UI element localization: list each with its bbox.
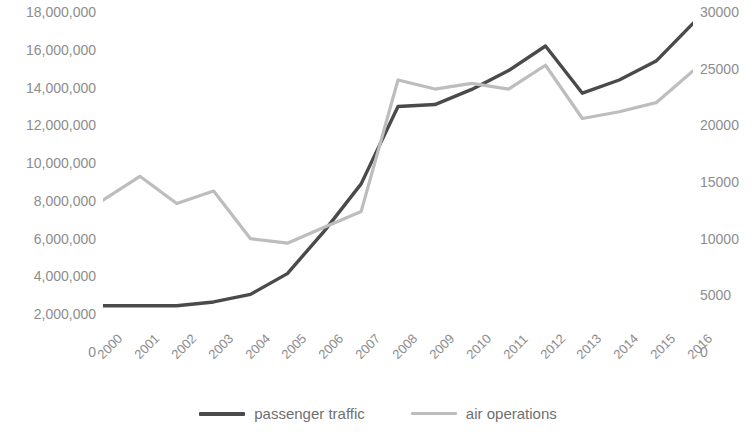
series-line-passenger-traffic	[103, 23, 693, 305]
y-axis-left-tick: 18,000,000	[0, 5, 96, 19]
legend-label: air operations	[466, 406, 557, 421]
y-axis-left-tick: 12,000,000	[0, 118, 96, 132]
y-axis-right-tick: 20000	[700, 118, 756, 132]
legend-item[interactable]: air operations	[411, 406, 557, 421]
y-axis-right-tick: 5000	[700, 288, 756, 302]
y-axis-left-tick: 10,000,000	[0, 156, 96, 170]
y-axis-left-tick: 6,000,000	[0, 232, 96, 246]
line-chart: 02,000,0004,000,0006,000,0008,000,00010,…	[0, 0, 756, 438]
y-axis-left-tick: 16,000,000	[0, 43, 96, 57]
legend-label: passenger traffic	[254, 406, 365, 421]
legend-swatch-icon	[411, 412, 457, 415]
y-axis-right-tick: 25000	[700, 62, 756, 76]
chart-legend: passenger trafficair operations	[0, 406, 756, 421]
y-axis-right-tick: 10000	[700, 232, 756, 246]
legend-item[interactable]: passenger traffic	[199, 406, 365, 421]
plot-svg	[103, 12, 693, 352]
plot-area	[103, 12, 693, 352]
y-axis-left-tick: 4,000,000	[0, 269, 96, 283]
series-line-air-operations	[103, 65, 693, 243]
legend-swatch-icon	[199, 412, 245, 416]
y-axis-right-tick: 30000	[700, 5, 756, 19]
y-axis-left-tick: 2,000,000	[0, 307, 96, 321]
y-axis-left-tick: 8,000,000	[0, 194, 96, 208]
y-axis-left-tick: 14,000,000	[0, 81, 96, 95]
y-axis-left-tick: 0	[0, 345, 96, 359]
y-axis-right-tick: 15000	[700, 175, 756, 189]
